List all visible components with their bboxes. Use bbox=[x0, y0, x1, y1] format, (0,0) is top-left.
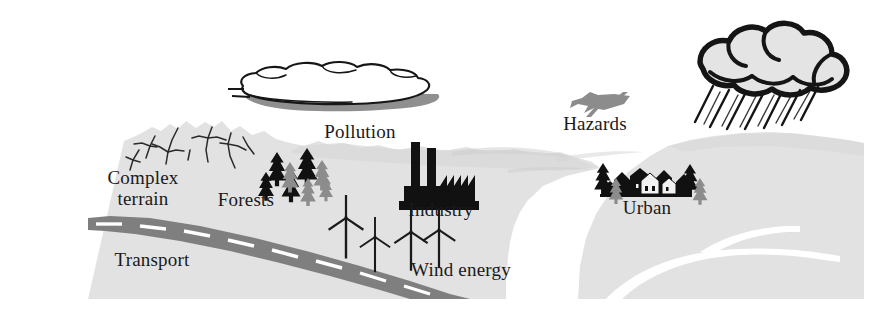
label-transport: Transport bbox=[98, 250, 206, 271]
label-complex-terrain: Complex terrain bbox=[88, 168, 198, 209]
label-industry: Industry bbox=[398, 200, 484, 221]
label-hazards: Hazards bbox=[550, 114, 640, 135]
label-pollution: Pollution bbox=[312, 122, 408, 143]
label-urban: Urban bbox=[605, 198, 689, 219]
smog-cloud-icon bbox=[228, 62, 439, 111]
label-wind-energy: Wind energy bbox=[396, 260, 526, 281]
rain-cloud-icon bbox=[695, 23, 847, 129]
label-forests: Forests bbox=[204, 190, 288, 211]
landscape-diagram: Complex terrain Forests Transport Pollut… bbox=[0, 0, 871, 314]
